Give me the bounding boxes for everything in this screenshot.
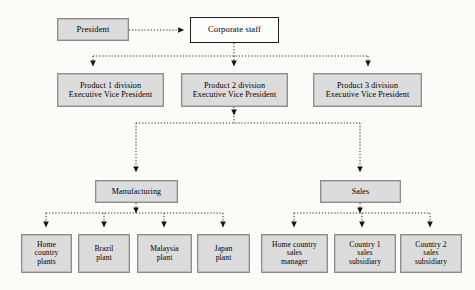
node-brazil-plant[interactable]: Brazil plant [78,234,130,273]
node-division-2[interactable]: Product 2 division Executive Vice Presid… [181,73,288,107]
node-division-3[interactable]: Product 3 division Executive Vice Presid… [313,73,422,107]
org-chart: President Corporate staff Product 1 divi… [0,0,475,290]
node-president[interactable]: President [57,18,129,41]
node-division-1[interactable]: Product 1 division Executive Vice Presid… [57,73,164,107]
node-sales-label: Sales [321,187,400,196]
node-home-country-sales-manager[interactable]: Home country sales manager [261,234,328,273]
node-malaysia-plant-label: Malaysia plant [138,245,191,262]
node-home-country-plants-label: Home country plants [22,241,71,267]
node-corporate-staff-label: Corporate staff [191,25,278,35]
node-japan-plant[interactable]: Japan plant [197,234,250,273]
node-manufacturing-label: Manufacturing [96,187,177,196]
node-corporate-staff[interactable]: Corporate staff [190,17,279,43]
node-home-country-sales-manager-label: Home country sales manager [262,241,327,267]
node-country-1-sales-subsidiary-label: Country 1 sales subsidiary [335,241,395,267]
node-home-country-plants[interactable]: Home country plants [21,234,72,273]
node-brazil-plant-label: Brazil plant [79,245,129,262]
node-malaysia-plant[interactable]: Malaysia plant [137,234,192,273]
node-country-2-sales-subsidiary-label: Country 2 sales subsidiary [401,241,461,267]
node-president-label: President [58,25,128,35]
node-division-2-label: Product 2 division Executive Vice Presid… [182,81,287,99]
node-country-2-sales-subsidiary[interactable]: Country 2 sales subsidiary [400,234,462,273]
node-sales[interactable]: Sales [320,180,401,203]
node-manufacturing[interactable]: Manufacturing [95,180,178,203]
node-japan-plant-label: Japan plant [198,245,249,262]
node-division-3-label: Product 3 division Executive Vice Presid… [314,81,421,99]
node-division-1-label: Product 1 division Executive Vice Presid… [58,81,163,99]
node-country-1-sales-subsidiary[interactable]: Country 1 sales subsidiary [334,234,396,273]
